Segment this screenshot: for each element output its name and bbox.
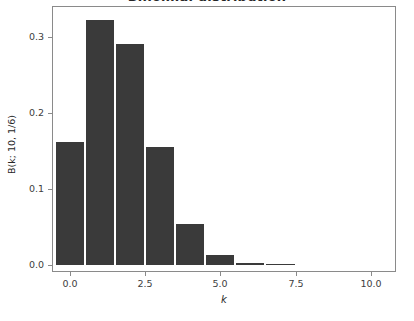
bar-k-4 <box>176 224 204 265</box>
y-tick-mark <box>48 265 52 266</box>
x-tick-mark <box>70 272 71 276</box>
y-tick-mark <box>48 37 52 38</box>
bar-k-1 <box>86 20 114 265</box>
y-tick-label: 0.3 <box>4 31 44 42</box>
x-tick-label: 2.5 <box>123 278 167 289</box>
x-tick-label: 10.0 <box>349 278 393 289</box>
chart-figure: Binomial distribution k B(k; 10, 1/6) 0.… <box>0 0 414 321</box>
y-tick-label: 0.0 <box>4 259 44 270</box>
bar-k-2 <box>116 44 144 265</box>
plot-area <box>53 7 395 271</box>
bar-k-0 <box>56 142 84 265</box>
y-tick-label: 0.1 <box>4 183 44 194</box>
x-tick-label: 0.0 <box>48 278 92 289</box>
y-tick-label: 0.2 <box>4 107 44 118</box>
bar-k-3 <box>146 147 174 265</box>
x-tick-label: 7.5 <box>274 278 318 289</box>
bar-k-6 <box>236 263 264 265</box>
y-tick-mark <box>48 113 52 114</box>
bar-k-5 <box>206 255 234 265</box>
x-tick-mark <box>220 272 221 276</box>
x-axis-label: k <box>52 294 396 305</box>
y-tick-mark <box>48 189 52 190</box>
x-tick-label: 5.0 <box>198 278 242 289</box>
x-tick-mark <box>371 272 372 276</box>
bar-k-7 <box>266 264 294 265</box>
x-tick-mark <box>296 272 297 276</box>
chart-title: Binomial distribution <box>0 0 414 2</box>
x-tick-mark <box>145 272 146 276</box>
